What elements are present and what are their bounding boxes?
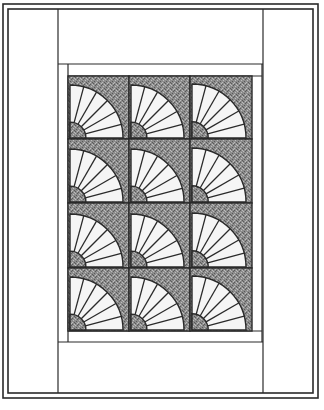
- fan-block: [129, 268, 190, 331]
- fan-block: [190, 76, 252, 139]
- fan-blocks: [68, 76, 252, 331]
- fan-block: [68, 203, 129, 268]
- quilt-diagram: [0, 0, 324, 410]
- fan-block: [129, 139, 190, 203]
- fan-block: [190, 139, 252, 203]
- fan-block: [190, 203, 252, 268]
- fan-block: [68, 268, 129, 331]
- fan-block: [129, 76, 190, 139]
- fan-block: [129, 203, 190, 268]
- fan-block: [190, 268, 252, 331]
- fan-block: [68, 139, 129, 203]
- fan-block: [68, 76, 129, 139]
